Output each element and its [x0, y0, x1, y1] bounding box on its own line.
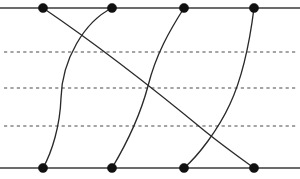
- bottom-node-4: [249, 163, 258, 172]
- diagram-svg: [0, 0, 300, 179]
- top-node-4: [249, 3, 258, 12]
- top-node-2: [107, 3, 116, 12]
- level-line-group: [4, 52, 296, 126]
- top-node-3: [179, 3, 188, 12]
- bottom-node-3: [179, 163, 188, 172]
- tangle-diagram-canvas: [0, 0, 300, 179]
- bottom-node-2: [107, 163, 116, 172]
- bottom-node-1: [38, 163, 47, 172]
- top-node-1: [38, 3, 47, 12]
